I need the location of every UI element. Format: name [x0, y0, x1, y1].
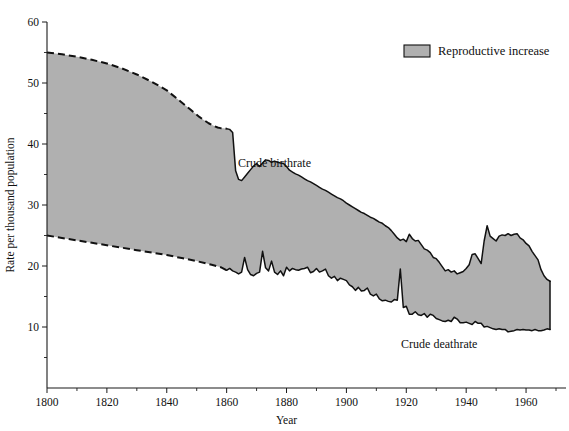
x-tick-label: 1880	[275, 396, 298, 408]
x-axis-title: Year	[276, 414, 297, 426]
legend-label: Reproductive increase	[438, 44, 550, 58]
x-tick-label: 1820	[95, 396, 118, 408]
y-tick-label: 20	[28, 260, 40, 272]
x-tick-label: 1940	[455, 396, 478, 408]
reproductive-increase-band	[47, 53, 550, 332]
annotation-crude-deathrate: Crude deathrate	[401, 337, 477, 351]
x-tick-label: 1860	[215, 396, 238, 408]
birthrate-deathrate-area-chart: 1020304050601800182018401860188019001920…	[0, 0, 569, 431]
chart-container: 1020304050601800182018401860188019001920…	[0, 0, 569, 431]
x-tick-label: 1840	[155, 396, 178, 408]
legend-swatch	[404, 45, 430, 57]
y-tick-label: 50	[28, 77, 40, 89]
x-tick-label: 1960	[515, 396, 538, 408]
y-tick-label: 10	[28, 321, 40, 333]
y-tick-label: 60	[28, 16, 40, 28]
y-axis-title: Rate per thousand population	[4, 137, 17, 272]
y-tick-label: 30	[28, 199, 40, 211]
y-tick-label: 40	[28, 138, 40, 150]
x-tick-label: 1900	[335, 396, 358, 408]
annotation-crude-birthrate: Crude birthrate	[238, 156, 311, 170]
x-tick-label: 1920	[395, 396, 418, 408]
x-tick-label: 1800	[36, 396, 59, 408]
legend: Reproductive increase	[404, 44, 550, 58]
